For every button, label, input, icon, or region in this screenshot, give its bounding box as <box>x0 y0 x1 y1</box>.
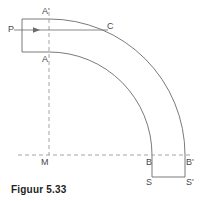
label-m: M <box>41 158 49 167</box>
label-b: B <box>146 158 152 167</box>
direction-arrow-icon <box>33 27 40 33</box>
diagram-canvas <box>0 0 201 201</box>
label-c: C <box>107 22 114 31</box>
band-outer-edge <box>22 19 185 177</box>
label-p: P <box>8 25 14 34</box>
label-s: S <box>146 178 152 187</box>
figure-container: P A' A C M B B' S S' Figuur 5.33 <box>0 0 201 201</box>
label-b-prime: B' <box>186 158 194 167</box>
label-a: A <box>42 55 48 64</box>
label-a-prime: A' <box>42 7 50 16</box>
label-s-prime: S' <box>186 178 194 187</box>
figure-caption: Figuur 5.33 <box>11 184 67 195</box>
